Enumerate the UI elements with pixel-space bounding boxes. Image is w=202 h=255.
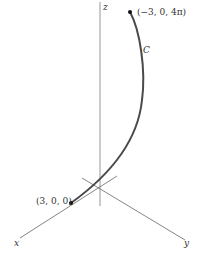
end-point-marker	[128, 10, 132, 14]
y-axis	[82, 178, 185, 240]
x-axis	[20, 176, 117, 238]
end-point-label: (−3, 0, 4π)	[137, 7, 186, 17]
x-axis-label: x	[14, 238, 19, 248]
curve-label: C	[143, 45, 150, 55]
start-point-label: (3, 0, 0)	[36, 196, 72, 206]
z-axis-label: z	[102, 2, 108, 12]
helix-diagram: z x y C (−3, 0, 4π) (3, 0, 0)	[0, 0, 202, 255]
curve-c	[71, 12, 143, 203]
y-axis-label: y	[183, 238, 190, 248]
